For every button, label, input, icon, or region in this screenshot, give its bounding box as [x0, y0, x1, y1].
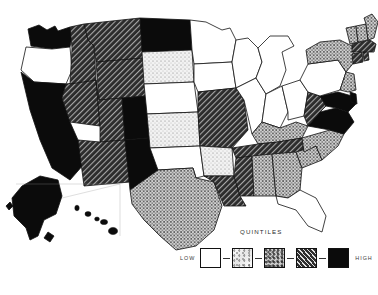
legend-swatch-quintile-3[interactable] [264, 248, 285, 268]
state-iowa [194, 62, 236, 92]
state-alaska [6, 176, 62, 242]
legend-swatch-quintile-4[interactable] [296, 248, 317, 268]
legend-dash-4 [319, 258, 326, 259]
legend-scale: LOW HIGH [180, 248, 373, 268]
state-connecticut [352, 52, 363, 64]
state-north-dakota [140, 18, 192, 52]
legend-swatch-quintile-5[interactable] [328, 248, 349, 268]
state-rhode-island [363, 51, 369, 61]
state-south-dakota [142, 50, 194, 84]
map-legend: QUINTILES LOW HIGH [180, 228, 378, 286]
choropleth-map-figure: QUINTILES LOW HIGH [0, 0, 378, 295]
legend-low-label: LOW [180, 255, 195, 261]
state-wyoming [96, 58, 147, 100]
state-minnesota [190, 20, 236, 64]
legend-high-label: HIGH [355, 255, 372, 261]
state-nebraska [144, 82, 198, 114]
state-hawaii [75, 205, 118, 234]
state-delaware [350, 92, 357, 104]
state-washington [28, 25, 72, 49]
legend-dash-1 [223, 258, 230, 259]
state-pennsylvania [300, 60, 346, 96]
legend-dash-2 [255, 258, 262, 259]
state-missouri [198, 88, 248, 148]
legend-title: QUINTILES [240, 228, 283, 235]
state-georgia [272, 152, 302, 198]
state-arkansas [200, 146, 234, 176]
legend-dash-3 [287, 258, 294, 259]
state-arizona [78, 140, 130, 186]
state-kansas [147, 112, 200, 148]
legend-swatch-quintile-2[interactable] [232, 248, 253, 268]
legend-swatch-quintile-1[interactable] [200, 248, 221, 268]
